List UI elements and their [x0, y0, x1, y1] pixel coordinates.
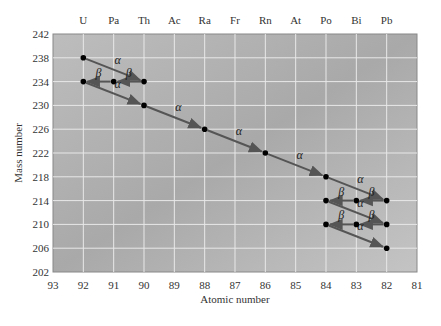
nuclide-point [354, 198, 360, 204]
nuclide-point [384, 198, 390, 204]
x-tick-label: 83 [351, 279, 363, 291]
nuclide-point [384, 222, 390, 228]
element-symbol-label: U [79, 14, 87, 26]
decay-chart: 9392919089888786858483828124223823423022… [0, 0, 441, 326]
element-symbol-label: Po [320, 14, 332, 26]
y-tick-label: 222 [33, 147, 50, 159]
alpha-label: α [236, 124, 243, 138]
element-symbol-label: At [290, 14, 301, 26]
element-symbol-label: Th [138, 14, 151, 26]
y-tick-label: 218 [33, 171, 50, 183]
element-symbol-label: Ac [168, 14, 181, 26]
y-tick-label: 202 [33, 266, 50, 278]
x-tick-label: 92 [78, 279, 89, 291]
alpha-label: α [115, 53, 122, 67]
nuclide-point [111, 79, 117, 85]
nuclide-point [141, 79, 147, 85]
x-tick-label: 89 [169, 279, 181, 291]
x-tick-label: 90 [139, 279, 151, 291]
y-tick-label: 214 [33, 195, 50, 207]
nuclide-point [141, 103, 147, 109]
element-symbol-label: Ra [199, 14, 211, 26]
nuclide-point [354, 222, 360, 228]
x-tick-label: 85 [290, 279, 302, 291]
nuclide-point [81, 55, 87, 61]
beta-label: β [368, 185, 375, 199]
x-tick-label: 87 [230, 279, 242, 291]
beta-label: β [337, 208, 344, 222]
y-tick-label: 226 [33, 123, 50, 135]
y-tick-label: 206 [33, 242, 50, 254]
x-axis-label: Atomic number [200, 293, 270, 305]
alpha-label: α [297, 148, 304, 162]
beta-label: β [125, 66, 132, 80]
y-tick-label: 210 [33, 218, 50, 230]
x-tick-label: 91 [108, 279, 119, 291]
x-tick-label: 81 [412, 279, 423, 291]
alpha-label: α [357, 172, 364, 186]
nuclide-point [202, 126, 208, 132]
x-tick-label: 88 [199, 279, 211, 291]
element-symbol-label: Fr [230, 14, 240, 26]
beta-label: β [368, 208, 375, 222]
x-tick-label: 93 [48, 279, 60, 291]
x-tick-label: 82 [381, 279, 392, 291]
element-symbol-label: Pb [381, 14, 393, 26]
nuclide-point [323, 174, 329, 180]
nuclide-point [323, 222, 329, 228]
beta-label: β [337, 185, 344, 199]
y-tick-label: 242 [33, 28, 50, 40]
nuclide-point [263, 150, 269, 156]
nuclide-point [384, 245, 390, 251]
element-symbol-label: Pa [108, 14, 119, 26]
x-tick-label: 86 [260, 279, 272, 291]
y-tick-label: 230 [33, 99, 50, 111]
y-tick-label: 238 [33, 52, 50, 64]
y-axis-label: Mass number [12, 123, 24, 183]
alpha-label: α [175, 100, 182, 114]
y-tick-label: 234 [33, 76, 50, 88]
beta-label: β [95, 66, 102, 80]
nuclide-point [81, 79, 87, 85]
element-symbol-label: Bi [351, 14, 361, 26]
x-tick-label: 84 [321, 279, 333, 291]
nuclide-point [323, 198, 329, 204]
element-symbol-label: Rn [259, 14, 272, 26]
